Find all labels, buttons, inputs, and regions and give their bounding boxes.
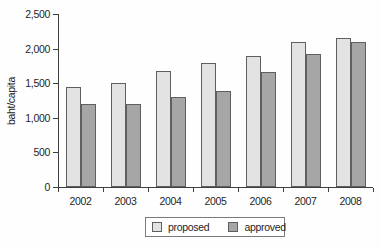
- bar-proposed-2007: [291, 42, 306, 187]
- x-tick-7: [373, 188, 374, 192]
- year-label-2002: 2002: [58, 196, 103, 207]
- year-label-2007: 2007: [283, 196, 328, 207]
- bar-approved-2002: [81, 104, 96, 187]
- y-tick-1500: [53, 83, 58, 84]
- year-label-2003: 2003: [103, 196, 148, 207]
- x-axis-line: [58, 187, 373, 188]
- bar-approved-2004: [171, 97, 186, 187]
- plot-area: 05001,0001,5002,0002,5002002200320042005…: [58, 14, 373, 187]
- bar-proposed-2005: [201, 63, 216, 187]
- legend-item-approved: approved: [228, 222, 285, 233]
- y-tick-label-2500: 2,500: [8, 9, 50, 19]
- legend-swatch-proposed: [152, 222, 162, 232]
- legend-label-approved: approved: [244, 222, 285, 233]
- bar-approved-2006: [261, 72, 276, 187]
- bar-proposed-2002: [66, 87, 81, 187]
- year-label-2006: 2006: [238, 196, 283, 207]
- bar-proposed-2003: [111, 83, 126, 187]
- y-tick-label-1500: 1,500: [8, 78, 50, 88]
- y-tick-1000: [53, 118, 58, 119]
- x-tick-2: [148, 188, 149, 192]
- legend-item-proposed: proposed: [152, 222, 209, 233]
- bar-approved-2003: [126, 104, 141, 187]
- legend-label-proposed: proposed: [168, 222, 209, 233]
- y-tick-label-500: 500: [8, 147, 50, 157]
- bar-proposed-2008: [336, 38, 351, 187]
- bar-chart-figure: baht/capita 05001,0001,5002,0002,5002002…: [0, 0, 381, 249]
- bar-approved-2008: [351, 42, 366, 187]
- x-tick-1: [103, 188, 104, 192]
- year-label-2008: 2008: [328, 196, 373, 207]
- y-tick-500: [53, 152, 58, 153]
- y-axis-line: [58, 14, 59, 188]
- y-tick-2000: [53, 49, 58, 50]
- legend: proposed approved: [145, 217, 285, 237]
- y-tick-label-0: 0: [8, 182, 50, 192]
- bar-approved-2005: [216, 91, 231, 187]
- x-tick-5: [283, 188, 284, 192]
- bar-proposed-2004: [156, 71, 171, 187]
- year-label-2004: 2004: [148, 196, 193, 207]
- bar-proposed-2006: [246, 56, 261, 187]
- year-label-2005: 2005: [193, 196, 238, 207]
- x-tick-3: [193, 188, 194, 192]
- y-tick-2500: [53, 14, 58, 15]
- y-axis-title: baht/capita: [5, 51, 17, 151]
- x-tick-4: [238, 188, 239, 192]
- y-tick-label-2000: 2,000: [8, 44, 50, 54]
- x-tick-0: [58, 188, 59, 192]
- x-tick-6: [328, 188, 329, 192]
- bar-approved-2007: [306, 54, 321, 187]
- legend-swatch-approved: [228, 222, 238, 232]
- y-tick-label-1000: 1,000: [8, 113, 50, 123]
